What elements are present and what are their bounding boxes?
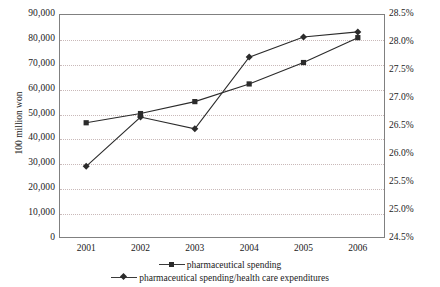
gridline — [60, 214, 384, 215]
y-axis-right-tick-label: 28.5% — [389, 9, 439, 19]
x-axis-tick-label: 2001 — [56, 243, 116, 253]
y-axis-left-tick-label: 30,000 — [0, 158, 55, 168]
legend-marker-square-icon — [159, 260, 185, 269]
y-axis-right-tick-label: 27.0% — [389, 93, 439, 103]
gridline — [60, 115, 384, 116]
chart-legend: pharmaceutical spending pharmaceutical s… — [0, 258, 440, 284]
y-axis-right-tick-label: 24.5% — [389, 233, 439, 243]
legend-label: pharmaceutical spending — [187, 260, 282, 270]
x-axis-tick-label: 2004 — [219, 243, 279, 253]
gridline — [60, 90, 384, 91]
y-axis-right-tick-label: 25.5% — [389, 177, 439, 187]
gridline — [60, 189, 384, 190]
gridline — [60, 40, 384, 41]
y-axis-left-tick-label: 50,000 — [0, 109, 55, 119]
y-axis-right-tick-label: 26.5% — [389, 121, 439, 131]
y-axis-left-tick-label: 70,000 — [0, 59, 55, 69]
gridline — [60, 139, 384, 140]
y-axis-right-tick-label: 27.5% — [389, 65, 439, 75]
x-axis-tick-label: 2005 — [274, 243, 334, 253]
x-axis-tick-label: 2006 — [328, 243, 388, 253]
y-axis-left-tick-label: 20,000 — [0, 183, 55, 193]
chart-container: 100 million won 010,00020,00030,00040,00… — [0, 0, 440, 287]
y-axis-left-tick-label: 90,000 — [0, 9, 55, 19]
y-axis-left-tick-label: 10,000 — [0, 208, 55, 218]
legend-item-spending-ratio[interactable]: pharmaceutical spending/health care expe… — [0, 271, 440, 284]
y-axis-right-tick-label: 28.0% — [389, 37, 439, 47]
y-axis-left-tick-label: 60,000 — [0, 84, 55, 94]
x-axis-tick-label: 2002 — [111, 243, 171, 253]
x-axis-tick-label: 2003 — [165, 243, 225, 253]
gridline — [60, 164, 384, 165]
y-axis-left-tick-label: 80,000 — [0, 34, 55, 44]
y-axis-right-tick-label: 25.0% — [389, 205, 439, 215]
y-axis-left-tick-label: 0 — [0, 233, 55, 243]
plot-area — [59, 14, 385, 238]
legend-label: pharmaceutical spending/health care expe… — [139, 273, 329, 283]
legend-item-pharmaceutical-spending[interactable]: pharmaceutical spending — [0, 258, 440, 271]
gridline — [60, 65, 384, 66]
y-axis-right-tick-label: 26.0% — [389, 149, 439, 159]
legend-marker-diamond-icon — [111, 273, 137, 282]
y-axis-left-tick-label: 40,000 — [0, 133, 55, 143]
